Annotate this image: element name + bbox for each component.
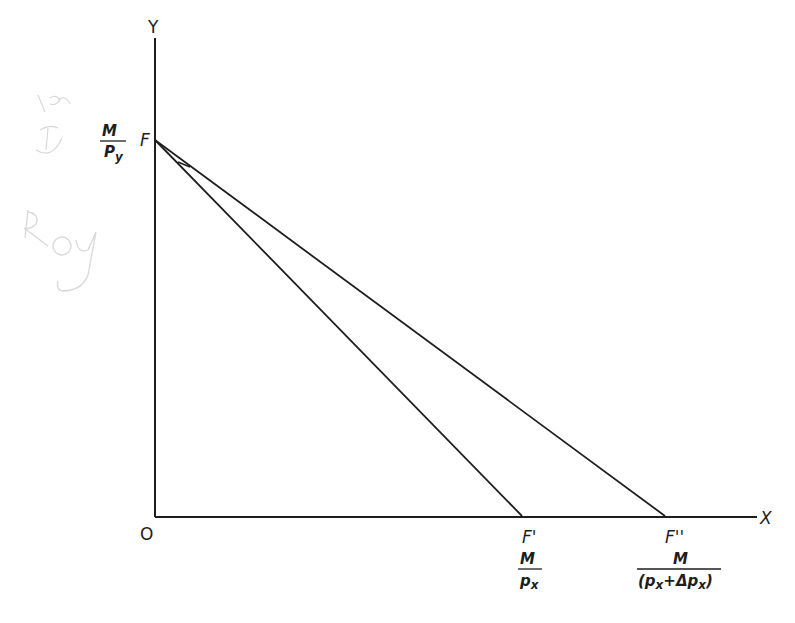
budget-line-diagram: Y X O F M Py F' M px F'' M (px+Δpx) xyxy=(0,0,795,623)
f2-value-denominator: (px+Δpx) xyxy=(638,572,713,592)
f-value-numerator: M xyxy=(102,122,117,140)
point-f-label: F xyxy=(140,130,150,150)
budget-line-ff1 xyxy=(155,140,522,516)
pencil-handwriting xyxy=(24,95,96,291)
f2-value-numerator: M xyxy=(673,550,688,568)
f1-value-numerator: M xyxy=(520,550,535,568)
x-axis-label: X xyxy=(759,508,772,528)
point-f1-label: F' xyxy=(522,527,536,547)
f-value-denominator: Py xyxy=(104,143,124,164)
y-axis-label: Y xyxy=(147,17,159,37)
origin-label: O xyxy=(140,524,153,544)
point-f2-label: F'' xyxy=(665,527,684,547)
budget-line-ff2 xyxy=(155,140,665,516)
f1-value-denominator: px xyxy=(519,572,540,592)
